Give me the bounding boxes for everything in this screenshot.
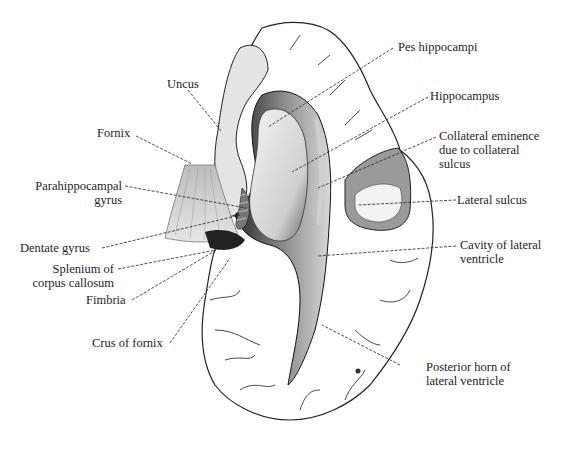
label-line: sulcus bbox=[439, 157, 539, 171]
label-dentate-gyrus: Dentate gyrus bbox=[20, 241, 90, 255]
label-line: due to collateral bbox=[439, 143, 539, 157]
label-parahippocampal-gyrus: Parahippocampal gyrus bbox=[28, 179, 122, 207]
label-fimbria: Fimbria bbox=[86, 293, 126, 307]
hippocampus-shape bbox=[250, 109, 308, 241]
label-line: lateral ventricle bbox=[426, 374, 511, 388]
label-line: gyrus bbox=[28, 193, 122, 207]
label-line: ventricle bbox=[460, 252, 541, 266]
label-pes-hippocampi: Pes hippocampi bbox=[398, 40, 478, 54]
label-crus-of-fornix: Crus of fornix bbox=[92, 336, 163, 350]
label-hippocampus: Hippocampus bbox=[430, 89, 499, 103]
label-cavity-lateral-ventricle: Cavity of lateral ventricle bbox=[460, 238, 541, 266]
label-line: Posterior horn of bbox=[426, 360, 511, 374]
label-line: corpus callosum bbox=[20, 276, 114, 290]
label-line: Parahippocampal bbox=[28, 179, 122, 193]
label-line: Collateral eminence bbox=[439, 129, 539, 143]
label-line: Splenium of bbox=[20, 262, 114, 276]
label-fornix: Fornix bbox=[97, 126, 130, 140]
label-line: Cavity of lateral bbox=[460, 238, 541, 252]
anatomical-figure: Uncus Fornix Parahippocampal gyrus Denta… bbox=[0, 0, 562, 451]
label-splenium: Splenium of corpus callosum bbox=[20, 262, 114, 290]
label-lateral-sulcus: Lateral sulcus bbox=[457, 193, 527, 207]
label-collateral-eminence: Collateral eminence due to collateral su… bbox=[439, 129, 539, 171]
label-posterior-horn: Posterior horn of lateral ventricle bbox=[426, 360, 511, 388]
label-uncus: Uncus bbox=[167, 77, 199, 91]
